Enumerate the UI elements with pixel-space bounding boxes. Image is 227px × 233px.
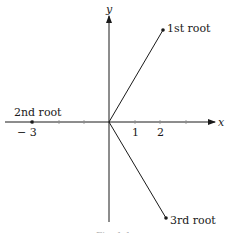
x-axis-label: x	[218, 116, 225, 129]
point-3rd-root	[164, 216, 168, 220]
y-axis-label: y	[105, 3, 113, 16]
figure-caption: Fig. 1.1	[96, 231, 131, 233]
point-1st-root	[161, 28, 165, 32]
tick-label-1: 1	[132, 126, 139, 139]
diagram-canvas: y x − 3 1 2 1st root 2nd root 3rd root F…	[0, 0, 227, 233]
label-3rd-root: 3rd root	[170, 214, 216, 227]
label-1st-root: 1st root	[167, 22, 211, 35]
tick-label-neg3: − 3	[17, 126, 37, 139]
tick-label-2: 2	[157, 126, 164, 139]
label-2nd-root: 2nd root	[14, 106, 62, 119]
vector-1st-root	[109, 30, 163, 122]
point-2nd-root	[30, 120, 34, 124]
